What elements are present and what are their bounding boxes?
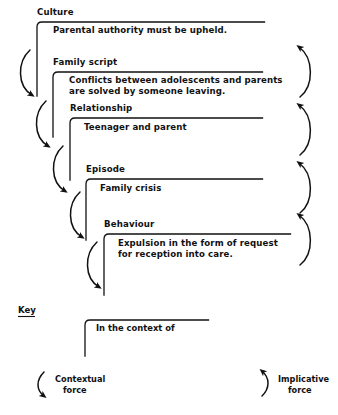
- level-behaviour-line-1: Expulsion in the form of request: [118, 238, 278, 248]
- level-relationship-line-1: Teenager and parent: [84, 122, 187, 132]
- level-behaviour: Behaviour Expulsion in the form of reque…: [104, 219, 291, 295]
- contextual-arrow-4: [70, 192, 82, 237]
- contextual-arrow-3: [53, 146, 65, 191]
- key-section: Key In the context of Contextual force I…: [18, 305, 329, 396]
- key-contextual-force-line-1: Contextual: [55, 374, 105, 384]
- level-culture-label: Culture: [37, 7, 74, 17]
- level-behaviour-line-2: for reception into care.: [118, 249, 233, 259]
- context-implicative-force-diagram: Culture Parental authority must be uphel…: [0, 0, 338, 415]
- implicative-arrow-2: [299, 105, 310, 155]
- contextual-arrow-5: [87, 242, 99, 287]
- key-implicative-force-line-1: Implicative: [278, 374, 329, 384]
- key-implicative-force-line-2: force: [288, 385, 312, 395]
- level-episode-label: Episode: [86, 164, 125, 174]
- implicative-arrow-1: [299, 47, 310, 97]
- level-family-script-line-1: Conflicts between adolescents and parent…: [69, 75, 283, 85]
- key-contextual-arrow: [38, 372, 44, 396]
- implicative-arrow-3: [299, 163, 310, 213]
- level-family-script-line-2: are solved by someone leaving.: [69, 86, 225, 96]
- key-bracket-label: In the context of: [96, 323, 175, 333]
- implicative-arrow-4: [299, 215, 310, 265]
- level-episode-line-1: Family crisis: [100, 183, 161, 193]
- contextual-arrow-1: [20, 50, 32, 95]
- key-title: Key: [18, 305, 36, 315]
- level-culture-line-1: Parental authority must be upheld.: [53, 25, 227, 35]
- level-relationship-label: Relationship: [70, 103, 132, 113]
- key-contextual-force-line-2: force: [63, 385, 87, 395]
- level-family-script-label: Family script: [53, 57, 117, 67]
- level-behaviour-label: Behaviour: [104, 219, 155, 229]
- implicative-force-arrows: [299, 47, 310, 265]
- key-implicative-arrow: [262, 371, 268, 396]
- contextual-arrow-2: [36, 101, 48, 146]
